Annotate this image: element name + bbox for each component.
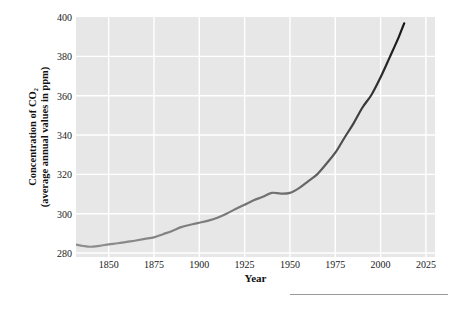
y-axis-tick-320: 320 — [46, 169, 72, 180]
footer-rule — [290, 294, 448, 295]
x-axis-tick-1900: 1900 — [179, 259, 219, 270]
gridlines — [76, 17, 435, 257]
plot-svg — [76, 17, 435, 257]
x-axis-tick-1875: 1875 — [134, 259, 174, 270]
y-axis-tick-400: 400 — [46, 12, 72, 23]
y-axis-tick-380: 380 — [46, 51, 72, 62]
x-axis-tick-1950: 1950 — [270, 259, 310, 270]
x-axis-tick-1850: 1850 — [89, 259, 129, 270]
y-axis-tick-360: 360 — [46, 90, 72, 101]
y-axis-tick-300: 300 — [46, 208, 72, 219]
y-axis-tick-340: 340 — [46, 130, 72, 141]
x-axis-tick-1925: 1925 — [225, 259, 265, 270]
x-axis-tick-2025: 2025 — [406, 259, 446, 270]
x-axis-tick-2000: 2000 — [361, 259, 401, 270]
y-axis-title-line1: Concentration of CO₂ — [27, 88, 38, 186]
x-axis-title: Year — [76, 272, 435, 284]
x-axis-tick-1975: 1975 — [315, 259, 355, 270]
co2-chart-figure: Concentration of CO₂ (average annual val… — [0, 0, 453, 310]
plot-area — [76, 17, 435, 257]
y-axis-tick-labels: 280300320340360380400 — [46, 0, 72, 310]
y-axis-tick-280: 280 — [46, 248, 72, 259]
